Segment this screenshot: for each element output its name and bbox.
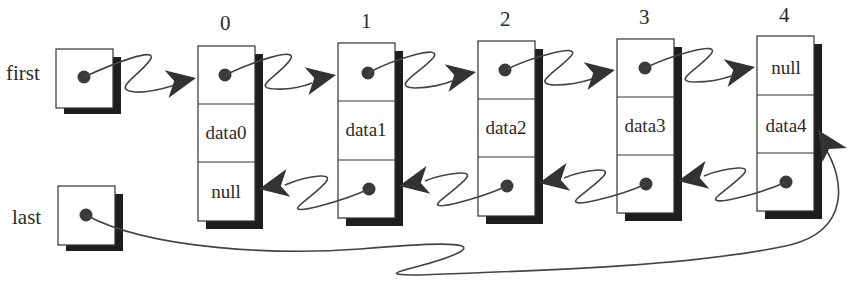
data-field: data4 [765, 115, 807, 136]
data-field: data1 [345, 119, 386, 140]
node-index: 4 [779, 3, 790, 27]
data-field: data3 [624, 115, 665, 136]
arrow-right-icon [584, 58, 618, 90]
node-3: 3 data3 [617, 5, 682, 221]
data-field: data0 [205, 122, 246, 143]
last-label: last [12, 205, 41, 229]
node-index: 0 [220, 11, 231, 35]
data-field: data2 [485, 117, 526, 138]
first-pointer: first [6, 49, 121, 114]
linked-list-diagram: first last 0 data0 null 1 data1 2 [0, 0, 851, 285]
last-pointer: last [12, 186, 123, 251]
arrow-right-icon [165, 66, 199, 98]
arrow-right-icon [305, 63, 339, 95]
arrow-right-icon [724, 55, 758, 87]
prev-field: null [211, 181, 241, 202]
node-0: 0 data0 null [198, 11, 263, 229]
node-index: 3 [639, 5, 650, 29]
node-index: 2 [500, 7, 511, 31]
node-index: 1 [361, 9, 372, 33]
first-label: first [6, 61, 40, 85]
arrow-right-icon [445, 60, 479, 92]
node-1: 1 data1 [338, 9, 403, 226]
node-4: 4 null data4 [757, 3, 822, 219]
node-2: 2 data2 [478, 7, 543, 224]
next-field: null [771, 57, 801, 78]
